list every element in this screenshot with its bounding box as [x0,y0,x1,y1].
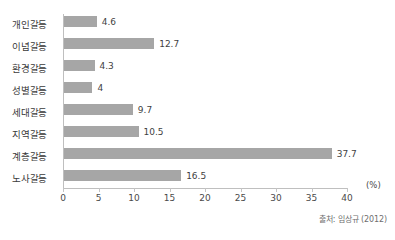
plot-area: 0510152025303540 (%) 개인갈등4.6이념갈등12.7환경갈등… [0,0,395,240]
x-axis-tick-label: 5 [96,193,102,203]
bar [64,60,95,71]
bar-value-label: 12.7 [159,39,179,49]
x-axis-tick-mark [241,188,242,192]
bar-value-label: 4.6 [102,17,116,27]
x-axis-tick-label: 40 [341,193,352,203]
bar [64,148,332,159]
x-axis-tick-mark [347,188,348,192]
x-axis-tick-label: 10 [128,193,139,203]
x-axis-tick-mark [99,188,100,192]
category-label: 계층갈등 [12,149,59,163]
x-axis-tick-mark [312,188,313,192]
bar-value-label: 37.7 [337,149,357,159]
source-note: 출처: 임상규 (2012) [319,213,387,224]
category-label: 개인갈등 [12,17,59,31]
bar [64,16,97,27]
x-axis-tick-mark [63,188,64,192]
bar-chart-figure: 0510152025303540 (%) 개인갈등4.6이념갈등12.7환경갈등… [0,0,395,240]
x-axis-tick-mark [134,188,135,192]
bar-value-label: 4.3 [100,61,114,71]
x-axis-tick-label: 15 [164,193,175,203]
x-axis-tick-mark [276,188,277,192]
bar [64,104,133,115]
x-axis-tick-mark [170,188,171,192]
category-label: 세대갈등 [12,105,59,119]
bar [64,38,154,49]
bar [64,82,92,93]
bar-value-label: 4 [97,83,103,93]
x-axis-tick-label: 30 [270,193,281,203]
category-label: 지역갈등 [12,127,59,141]
category-label: 노사갈등 [12,171,59,185]
category-label: 환경갈등 [12,61,59,75]
bar-value-label: 10.5 [144,127,164,137]
bar [64,170,181,181]
category-label: 이념갈등 [12,39,59,53]
x-axis-tick-label: 25 [235,193,246,203]
bar-value-label: 9.7 [138,105,152,115]
x-axis-tick-label: 35 [306,193,317,203]
x-axis-tick-label: 0 [60,193,66,203]
category-label: 성별갈등 [12,83,59,97]
x-axis-tick-label: 20 [199,193,210,203]
x-axis-tick-mark [205,188,206,192]
bar [64,126,139,137]
bar-value-label: 16.5 [186,171,206,181]
x-axis-unit-label: (%) [366,180,381,190]
